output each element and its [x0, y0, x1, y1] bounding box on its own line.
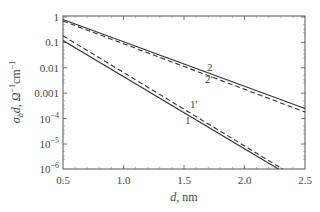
- x-axis-label: d, nm: [170, 190, 198, 204]
- chart: 2 2' 1' 1 1 0.1 0.01 0.001 10−4 10−5 10−…: [0, 0, 320, 212]
- svg-text:1.0: 1.0: [117, 174, 131, 186]
- svg-text:10−5: 10−5: [39, 136, 59, 150]
- svg-text:2.5: 2.5: [298, 174, 312, 186]
- svg-text:0.001: 0.001: [34, 87, 59, 99]
- curve-label-1: 1: [185, 114, 191, 126]
- svg-text:0.01: 0.01: [40, 62, 59, 74]
- y-minor-ticks: [63, 25, 305, 160]
- curve-label-1-prime: 1': [190, 98, 198, 110]
- svg-text:0.5: 0.5: [56, 174, 70, 186]
- curve-2: [63, 20, 305, 109]
- x-tick-labels: 0.5 1.0 1.5 2.0 2.5: [56, 174, 312, 186]
- svg-text:10−4: 10−4: [39, 111, 59, 125]
- y-axis-label: σbd, Ω−1cm−1: [8, 61, 25, 123]
- curve-label-2: 2: [207, 61, 213, 73]
- svg-text:2.0: 2.0: [238, 174, 252, 186]
- svg-text:1.5: 1.5: [177, 174, 191, 186]
- curve-label-2-prime: 2': [205, 73, 213, 85]
- x-ticks: [124, 16, 245, 169]
- svg-text:1: 1: [54, 11, 60, 23]
- curve-1-prime: [63, 36, 283, 169]
- y-major-ticks: [63, 17, 305, 144]
- svg-text:0.1: 0.1: [45, 36, 59, 48]
- curve-2-prime: [63, 21, 305, 112]
- plot-frame: [63, 16, 305, 169]
- y-tick-labels: 1 0.1 0.01 0.001 10−4 10−5 10−6: [34, 11, 59, 175]
- svg-text:10−6: 10−6: [39, 161, 59, 175]
